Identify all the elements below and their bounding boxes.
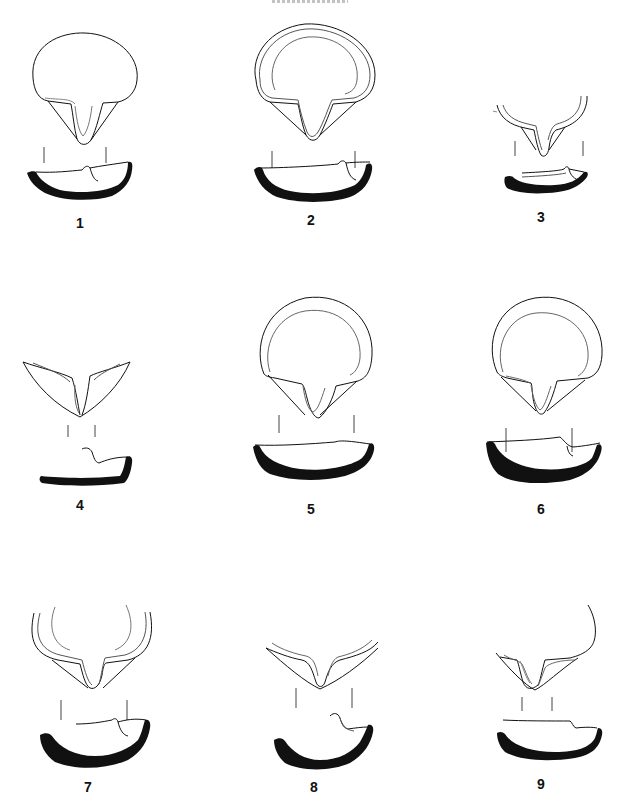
figure-number-6: 6 [537,502,545,516]
figure-number-4: 4 [76,498,84,512]
lamp-drawing-9 [0,0,619,796]
figure-number-3: 3 [537,210,545,224]
figure-number-9: 9 [537,777,545,791]
figure-number-5: 5 [307,502,315,516]
figure-number-7: 7 [84,780,92,794]
figure-number-2: 2 [307,213,315,227]
figure-number-1: 1 [76,216,84,230]
figure-number-8: 8 [310,780,318,794]
